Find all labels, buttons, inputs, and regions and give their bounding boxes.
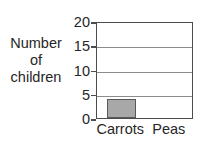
- gridline: [97, 96, 192, 97]
- y-axis-tick-label: 15: [66, 39, 90, 54]
- bar-chart: Number of children 20151050 CarrotsPeas: [0, 0, 204, 151]
- y-axis-tick-label: 5: [66, 88, 90, 103]
- x-axis-category-labels: CarrotsPeas: [96, 121, 200, 143]
- gridline: [97, 72, 192, 73]
- y-axis-title-line-3: children: [2, 69, 70, 86]
- y-axis-tick-label: 0: [66, 112, 90, 127]
- y-axis-tick-label: 20: [66, 15, 90, 30]
- y-axis-title-line-2: of: [2, 52, 70, 69]
- y-axis-title-line-1: Number: [2, 35, 70, 52]
- y-axis-title: Number of children: [2, 35, 70, 86]
- x-axis-label-peas: Peas: [145, 121, 194, 137]
- y-axis-tick-labels: 20151050: [66, 0, 90, 151]
- gridline: [97, 47, 192, 48]
- plot-area: [96, 22, 193, 119]
- x-axis-label-carrots: Carrots: [96, 121, 145, 137]
- bar-carrots: [107, 99, 136, 118]
- y-axis-tick-label: 10: [66, 63, 90, 78]
